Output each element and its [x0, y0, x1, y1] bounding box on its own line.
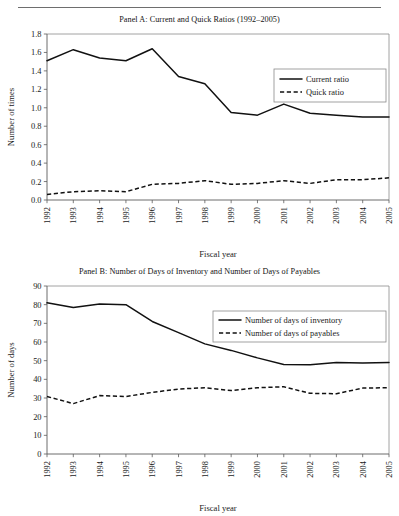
x-tick-label: 2005 [385, 461, 394, 478]
y-tick-label: 0 [37, 450, 41, 459]
y-tick-label: 20 [33, 413, 41, 422]
x-tick-label: 1994 [96, 460, 105, 478]
x-tick-label: 1997 [175, 207, 184, 224]
series-line-2 [47, 387, 389, 404]
y-tick-label: 0.4 [31, 159, 42, 168]
x-tick-label: 2004 [359, 206, 368, 224]
x-tick-label: 1998 [201, 207, 210, 224]
x-tick-label: 2002 [306, 207, 315, 224]
legend-label-1: Number of days of inventory [245, 316, 343, 325]
x-tick-label: 2000 [253, 207, 262, 224]
y-tick-label: 80 [33, 301, 41, 310]
y-axis-title: Number of times [6, 87, 16, 146]
y-tick-label: 50 [33, 357, 41, 366]
figure-page: Panel A: Current and Quick Ratios (1992–… [0, 0, 399, 516]
panel-a-title: Panel A: Current and Quick Ratios (1992–… [0, 14, 399, 25]
legend-label-2: Number of days of payables [245, 329, 339, 338]
x-tick-label: 2001 [280, 461, 289, 478]
x-tick-label: 2003 [332, 207, 341, 224]
x-tick-label: 2003 [332, 461, 341, 478]
legend-label-2: Quick ratio [306, 88, 344, 97]
x-tick-label: 1999 [227, 207, 236, 224]
panel-a: Panel A: Current and Quick Ratios (1992–… [0, 14, 399, 262]
x-tick-label: 1998 [201, 461, 210, 478]
y-tick-label: 60 [33, 338, 41, 347]
y-tick-label: 1.0 [31, 104, 41, 113]
y-tick-label: 1.6 [31, 48, 41, 57]
legend-label-1: Current ratio [306, 75, 349, 84]
header-rule [18, 7, 381, 8]
x-tick-label: 1996 [148, 461, 157, 478]
x-tick-label: 1999 [227, 461, 236, 478]
y-tick-label: 0.0 [31, 196, 41, 205]
panel-b: Panel B: Number of Days of Inventory and… [0, 266, 399, 516]
y-tick-label: 0.6 [31, 141, 41, 150]
panel-a-chart: 0.00.20.40.60.81.01.21.41.61.81992199319… [0, 28, 399, 260]
x-tick-label: 1995 [122, 461, 131, 478]
y-tick-label: 30 [33, 394, 41, 403]
x-tick-label: 1992 [43, 207, 52, 224]
plot-frame [47, 34, 389, 200]
legend-box [274, 69, 386, 102]
y-axis-title: Number of days [6, 342, 16, 398]
y-tick-label: 90 [33, 282, 41, 291]
y-tick-label: 10 [33, 431, 41, 440]
x-axis-title: Fiscal year [199, 503, 237, 513]
x-tick-label: 1997 [175, 461, 184, 478]
x-tick-label: 1994 [96, 206, 105, 224]
y-tick-label: 0.2 [31, 178, 41, 187]
x-tick-label: 1993 [69, 461, 78, 478]
x-axis-title: Fiscal year [199, 249, 237, 259]
plot-axes [47, 34, 389, 200]
y-tick-label: 0.8 [31, 122, 41, 131]
panel-b-svg: 0102030405060708090199219931994199519961… [0, 280, 399, 514]
x-tick-label: 2005 [385, 207, 394, 224]
y-tick-label: 40 [33, 375, 41, 384]
x-tick-label: 2002 [306, 461, 315, 478]
x-tick-label: 1993 [69, 207, 78, 224]
y-tick-label: 70 [33, 319, 41, 328]
x-tick-label: 1996 [148, 207, 157, 224]
x-tick-label: 2001 [280, 207, 289, 224]
y-tick-label: 1.8 [31, 30, 41, 39]
panel-a-svg: 0.00.20.40.60.81.01.21.41.61.81992199319… [0, 28, 399, 260]
x-tick-label: 1992 [43, 461, 52, 478]
x-tick-label: 2004 [359, 460, 368, 478]
panel-b-title: Panel B: Number of Days of Inventory and… [0, 266, 399, 277]
panel-b-chart: 0102030405060708090199219931994199519961… [0, 280, 399, 514]
series-line-2 [47, 178, 389, 195]
y-tick-label: 1.4 [31, 67, 42, 76]
x-tick-label: 2000 [253, 461, 262, 478]
x-tick-label: 1995 [122, 207, 131, 224]
y-tick-label: 1.2 [31, 85, 41, 94]
